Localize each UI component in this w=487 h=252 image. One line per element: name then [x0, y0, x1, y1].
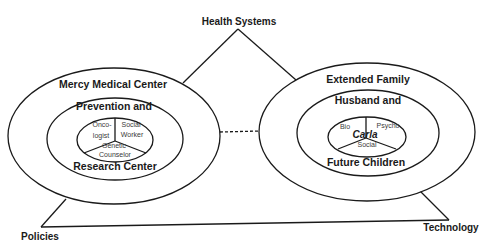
label-technology: Technology	[423, 223, 478, 233]
sector-oncologist-line2: logist	[93, 132, 109, 140]
center-name-carla: Carla	[352, 130, 377, 140]
triangle-edge-bottom	[41, 220, 449, 227]
diagram-shapes	[0, 0, 487, 252]
label-mercy-medical-center: Mercy Medical Center	[59, 79, 167, 90]
label-policies: Policies	[21, 232, 59, 242]
sector-genetic-counselor-line2: Counselor	[99, 151, 131, 159]
sector-genetic-counselor-line1: Genetic	[102, 142, 126, 150]
diagram-canvas: Health Systems Policies Technology Mercy…	[0, 0, 487, 252]
triangle-edge-right-lower	[420, 191, 449, 220]
label-health-systems: Health Systems	[202, 17, 276, 27]
sector-bio: Bio	[340, 123, 350, 131]
triangle-edge-left-lower	[41, 199, 66, 227]
sector-social: Social	[357, 141, 376, 149]
sector-oncologist-line1: Onco-	[92, 121, 111, 129]
label-future-children: Future Children	[327, 157, 405, 168]
label-research-center: Research Center	[73, 161, 156, 172]
label-extended-family: Extended Family	[326, 74, 409, 85]
triangle-edge-left-upper	[183, 29, 238, 83]
triangle-edge-right-upper	[238, 29, 296, 80]
label-prevention-and: Prevention and	[76, 101, 152, 112]
sector-psycho: Psycho	[377, 122, 400, 130]
label-husband-and: Husband and	[335, 95, 402, 106]
sector-social-worker-line1: Social	[121, 121, 140, 129]
sector-social-worker-line2: Worker	[121, 131, 143, 139]
dashed-connector	[220, 131, 259, 132]
